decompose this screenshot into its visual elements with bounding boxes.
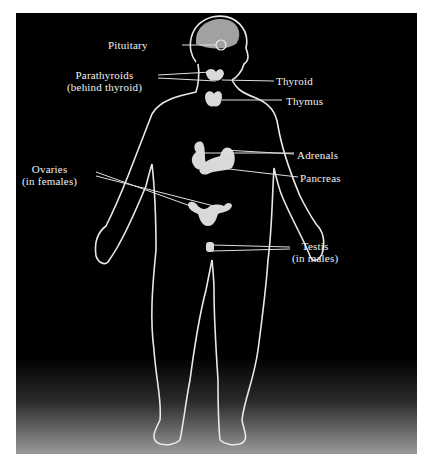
label-ovaries: Ovaries (in females): [22, 163, 77, 187]
label-pancreas: Pancreas: [300, 172, 341, 184]
label-parathyroids-note: (behind thyroid): [67, 81, 142, 93]
label-thyroid: Thyroid: [276, 75, 313, 87]
label-testis: Testis (in males): [292, 240, 338, 264]
label-testis-note: (in males): [292, 252, 338, 264]
label-pituitary: Pituitary: [108, 39, 148, 51]
label-adrenals: Adrenals: [297, 149, 338, 161]
label-ovaries-name: Ovaries: [22, 163, 77, 175]
label-ovaries-note: (in females): [22, 175, 77, 187]
diagram-panel: Pituitary Parathyroids (behind thyroid) …: [16, 13, 417, 454]
label-parathyroids: Parathyroids (behind thyroid): [67, 69, 142, 93]
label-thymus: Thymus: [286, 95, 323, 107]
label-parathyroids-name: Parathyroids: [67, 69, 142, 81]
thymus-gland: [205, 91, 222, 106]
brain-shape: [196, 19, 239, 49]
thyroid-gland: [206, 69, 224, 81]
label-testis-name: Testis: [292, 240, 338, 252]
